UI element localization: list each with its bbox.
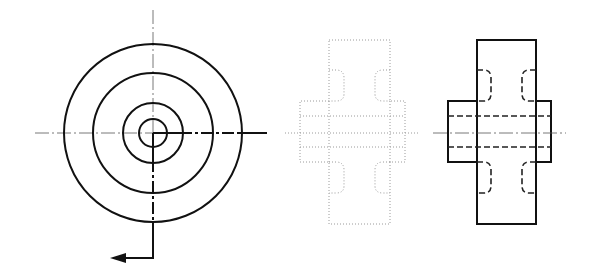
ghost-outline	[300, 40, 405, 224]
groove-top-right	[522, 70, 536, 101]
ghost-groove-br	[375, 162, 390, 193]
cut-plane-leader	[120, 222, 153, 258]
groove-top-left	[477, 70, 491, 101]
view-direction-arrow-icon	[110, 253, 126, 263]
ghost-groove-tr	[375, 70, 390, 101]
side-view	[433, 40, 566, 224]
groove-bottom-right	[522, 162, 536, 193]
front-view	[35, 10, 267, 263]
ghost-side-view	[285, 40, 420, 224]
technical-drawing	[0, 0, 591, 269]
ghost-groove-tl	[329, 70, 344, 101]
groove-bottom-left	[477, 162, 491, 193]
ghost-groove-bl	[329, 162, 344, 193]
